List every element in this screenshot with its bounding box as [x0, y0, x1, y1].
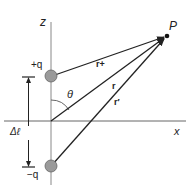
- positive-charge-label: +q: [31, 60, 42, 70]
- positive-charge: [45, 70, 57, 82]
- z-axis-label: z: [40, 16, 46, 28]
- vector-r-plus-label: r+: [96, 60, 105, 69]
- vector-r-minus: [52, 39, 164, 165]
- vector-r-plus: [52, 37, 164, 76]
- point-p-label: P: [169, 20, 177, 32]
- vector-r-label: r: [112, 82, 116, 91]
- separation-label: Δℓ: [10, 127, 20, 137]
- diagram-canvas: [0, 0, 189, 191]
- negative-charge-label: −q: [27, 170, 38, 180]
- point-p: [165, 34, 170, 39]
- theta-label: θ: [67, 89, 73, 100]
- dipole-diagram: z x +q −q P r+ r r′ θ Δℓ: [0, 0, 189, 191]
- vector-r-minus-label: r′: [114, 98, 120, 107]
- vector-r: [51, 38, 164, 121]
- negative-charge: [45, 160, 57, 172]
- x-axis-label: x: [174, 126, 180, 137]
- theta-arc: [51, 100, 69, 110]
